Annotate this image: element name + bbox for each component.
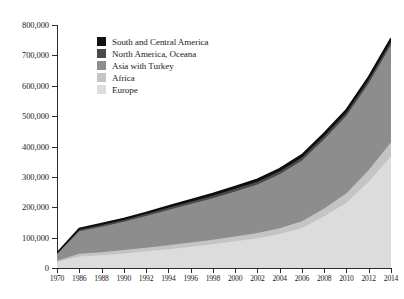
legend-item: Europe <box>97 84 208 95</box>
x-tick <box>324 268 325 273</box>
legend-item: Africa <box>97 72 208 83</box>
legend-swatch <box>97 85 106 94</box>
legend-label: Europe <box>112 85 138 95</box>
x-tick <box>369 268 370 273</box>
legend-label: North America, Oceana <box>112 49 196 59</box>
x-tick <box>257 268 258 273</box>
legend-swatch <box>97 37 106 46</box>
x-tick <box>302 268 303 273</box>
x-tick <box>235 268 236 273</box>
legend-swatch <box>97 49 106 58</box>
y-tick-label: 800,000 <box>22 21 49 30</box>
legend-label: South and Central America <box>112 37 208 47</box>
legend-swatch <box>97 61 106 70</box>
x-tick <box>191 268 192 273</box>
y-tick-label: 400,000 <box>22 143 49 152</box>
x-tick <box>124 268 125 273</box>
legend-label: Asia with Turkey <box>112 61 174 71</box>
x-tick <box>79 268 80 273</box>
chart-legend: South and Central AmericaNorth America, … <box>97 36 208 95</box>
y-tick-label: 700,000 <box>22 51 49 60</box>
legend-swatch <box>97 73 106 82</box>
x-tick <box>213 268 214 273</box>
stacked-area-chart: 0100,000200,000300,000400,000500,000600,… <box>0 0 404 299</box>
legend-item: Asia with Turkey <box>97 60 208 71</box>
x-tick <box>391 268 392 273</box>
x-tick <box>102 268 103 273</box>
y-tick-label: 0 <box>45 264 49 273</box>
x-tick <box>146 268 147 273</box>
x-tick <box>57 268 58 273</box>
x-tick-label: 2014 <box>377 275 404 283</box>
x-tick <box>168 268 169 273</box>
x-tick <box>346 268 347 273</box>
x-tick <box>280 268 281 273</box>
y-tick-label: 300,000 <box>22 173 49 182</box>
x-axis-line <box>57 268 392 269</box>
y-tick-label: 100,000 <box>22 234 49 243</box>
legend-item: North America, Oceana <box>97 48 208 59</box>
y-tick-label: 500,000 <box>22 112 49 121</box>
legend-item: South and Central America <box>97 36 208 47</box>
y-tick-label: 600,000 <box>22 82 49 91</box>
legend-label: Africa <box>112 73 135 83</box>
y-tick-label: 200,000 <box>22 203 49 212</box>
